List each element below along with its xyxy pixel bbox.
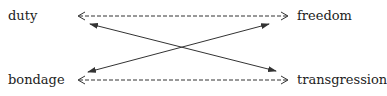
dashed-arrow-duty-freedom bbox=[78, 12, 288, 20]
dashed-arrow-bondage-transgression bbox=[78, 76, 288, 84]
solid-arrow-bondage-freedom bbox=[88, 24, 269, 72]
